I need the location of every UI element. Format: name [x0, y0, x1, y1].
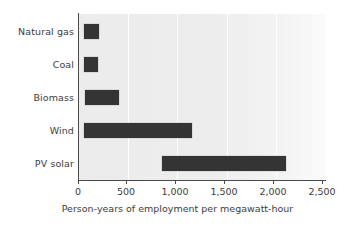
category-label-pv-solar: PV solar	[0, 159, 74, 169]
bar-pv-solar	[162, 156, 286, 171]
bar-coal	[84, 57, 98, 72]
bar-chart: Natural gas Coal Biomass Wind PV solar 0…	[0, 0, 355, 230]
x-tick-label-1000: 1,000	[161, 186, 188, 197]
x-tick-label-2000: 2,000	[259, 186, 286, 197]
category-axis-labels: Natural gas Coal Biomass Wind PV solar	[0, 14, 74, 180]
category-label-natural-gas: Natural gas	[0, 27, 74, 37]
bar-biomass	[85, 90, 119, 105]
x-tick-label-500: 500	[117, 186, 135, 197]
x-tick-label-1500: 1,500	[210, 186, 237, 197]
y-axis-line	[78, 13, 79, 181]
x-tick-500	[126, 180, 127, 184]
x-tick-label-0: 0	[75, 186, 81, 197]
category-label-biomass: Biomass	[0, 93, 74, 103]
x-tick-0	[78, 180, 79, 184]
x-tick-1500	[224, 180, 225, 184]
plot-area	[78, 14, 326, 180]
category-label-coal: Coal	[0, 60, 74, 70]
x-tick-1000	[175, 180, 176, 184]
x-tick-label-2500: 2,500	[308, 186, 335, 197]
gridline-500	[128, 14, 129, 180]
category-label-wind: Wind	[0, 126, 74, 136]
bar-natural-gas	[84, 24, 98, 39]
x-tick-2000	[273, 180, 274, 184]
bar-wind	[84, 123, 192, 138]
x-axis-line	[78, 180, 326, 181]
x-axis-title: Person-years of employment per megawatt-…	[0, 203, 355, 215]
x-tick-2500	[322, 180, 323, 184]
